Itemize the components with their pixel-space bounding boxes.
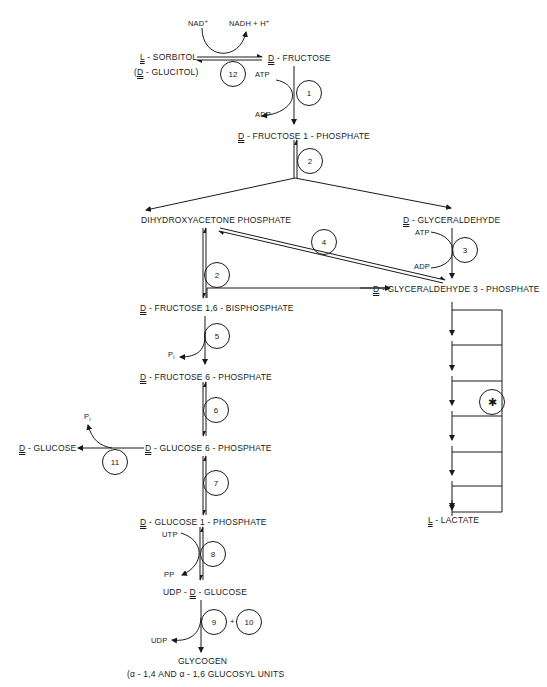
udp-prefix: UDP - <box>163 587 190 597</box>
enzyme-star-glycolysis: ✱ <box>479 389 505 415</box>
metabolite-fructose-1-phosphate: D - FRUCTOSE 1 - PHOSPHATE <box>238 131 370 141</box>
metabolite-name: - FRUCTOSE 6 - PHOSPHATE <box>146 372 272 382</box>
cofactor-atp-1: ATP <box>255 70 270 80</box>
metabolite-name: - GLYCERALDEHYDE <box>409 215 500 225</box>
pathway-arrows <box>0 0 547 687</box>
metabolite-name: DIHYDROXYACETONE PHOSPHATE <box>141 215 291 225</box>
metabolite-name: - GLUCOSE <box>196 587 247 597</box>
enzyme-plus-sign: + <box>230 617 235 627</box>
cofactor-text: NAD <box>188 19 204 28</box>
enzyme-10: 10 <box>236 609 262 635</box>
metabolite-glyceraldehyde-3-phosphate: D - GLYCERALDEHYDE 3 - PHOSPHATE <box>373 284 540 294</box>
metabolite-glucose: D - GLUCOSE <box>19 443 76 453</box>
enzyme-7: 7 <box>203 470 229 496</box>
cofactor-utp: UTP <box>162 530 178 540</box>
cofactor-text: NADH + H <box>229 19 266 28</box>
charge: + <box>204 18 208 24</box>
enzyme-8: 8 <box>200 541 226 567</box>
metabolite-name: - GLUCOSE <box>25 443 76 453</box>
metabolite-sorbitol: L - SORBITOL <box>140 52 197 62</box>
metabolite-name: GLYCOGEN <box>178 656 227 666</box>
cofactor-pp: PP <box>164 570 174 580</box>
metabolite-name: - FRUCTOSE 1 - PHOSPHATE <box>244 131 370 141</box>
glycogen-description: (α - 1,4 AND α - 1,6 GLUCOSYL UNITS <box>127 669 284 679</box>
enzyme-4: 4 <box>311 229 337 255</box>
cofactor-atp-3: ATP <box>415 228 430 238</box>
subscript: i <box>89 416 91 422</box>
metabolite-name: - GLUCITOL) <box>143 67 198 77</box>
enzyme-2-aldolase-reverse: 2 <box>204 262 230 288</box>
enzyme-11: 11 <box>102 449 128 475</box>
metabolite-fructose-6-phosphate: D - FRUCTOSE 6 - PHOSPHATE <box>140 372 272 382</box>
enzyme-12: 12 <box>220 61 246 87</box>
metabolite-glycogen: GLYCOGEN <box>178 656 227 666</box>
metabolite-name: - SORBITOL <box>145 52 198 62</box>
cofactor-adp-1: ADP <box>255 110 271 120</box>
enzyme-6: 6 <box>203 397 229 423</box>
metabolite-name: - LACTATE <box>433 515 480 525</box>
cofactor-nadh: NADH + H+ <box>229 16 270 29</box>
metabolite-name: - FRUCTOSE <box>274 53 330 63</box>
cofactor-nad: NAD+ <box>188 16 208 29</box>
metabolite-name: - GLUCOSE 6 - PHOSPHATE <box>151 443 271 453</box>
metabolite-fructose: D - FRUCTOSE <box>268 53 331 63</box>
metabolite-name: - FRUCTOSE 1,6 - BISPHOSPHATE <box>146 303 293 313</box>
metabolite-lactate: L - LACTATE <box>428 515 479 525</box>
enzyme-1: 1 <box>296 80 322 106</box>
cofactor-udp: UDP <box>151 636 167 646</box>
cofactor-pi-11: Pi <box>84 412 91 424</box>
enzyme-5: 5 <box>204 323 230 349</box>
metabolite-name: - GLYCERALDEHYDE 3 - PHOSPHATE <box>379 284 539 294</box>
cofactor-pi-5: Pi <box>168 350 175 362</box>
metabolite-udp-glucose: UDP - D - GLUCOSE <box>163 587 247 597</box>
metabolite-glucose-1-phosphate: D - GLUCOSE 1 - PHOSPHATE <box>140 517 267 527</box>
metabolite-dhap: DIHYDROXYACETONE PHOSPHATE <box>141 215 291 225</box>
enzyme-2-aldolase: 2 <box>297 148 323 174</box>
metabolite-glyceraldehyde: D - GLYCERALDEHYDE <box>403 215 500 225</box>
subscript: i <box>173 354 175 360</box>
metabolite-fructose-16-bisphosphate: D - FRUCTOSE 1,6 - BISPHOSPHATE <box>140 303 294 313</box>
metabolite-name: - GLUCOSE 1 - PHOSPHATE <box>146 517 266 527</box>
enzyme-9: 9 <box>201 609 227 635</box>
charge: + <box>266 18 270 24</box>
metabolite-glucose-6-phosphate: D - GLUCOSE 6 - PHOSPHATE <box>145 443 272 453</box>
metabolite-subtitle: (α - 1,4 AND α - 1,6 GLUCOSYL UNITS <box>127 669 284 679</box>
metabolite-glucitol: (D - GLUCITOL) <box>134 67 199 77</box>
enzyme-3: 3 <box>452 237 478 263</box>
cofactor-adp-3: ADP <box>414 262 430 272</box>
